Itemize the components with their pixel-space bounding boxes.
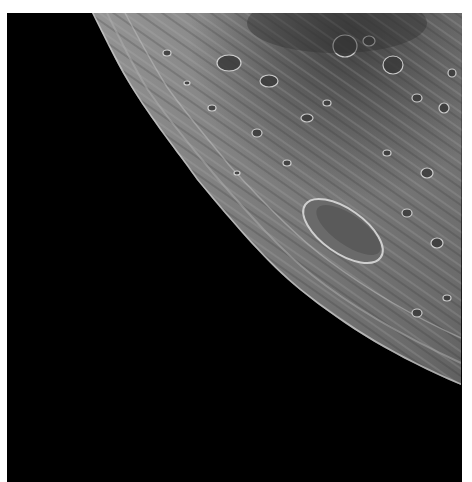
moon-photo bbox=[7, 13, 462, 482]
moon-surface-graphic bbox=[7, 13, 462, 482]
